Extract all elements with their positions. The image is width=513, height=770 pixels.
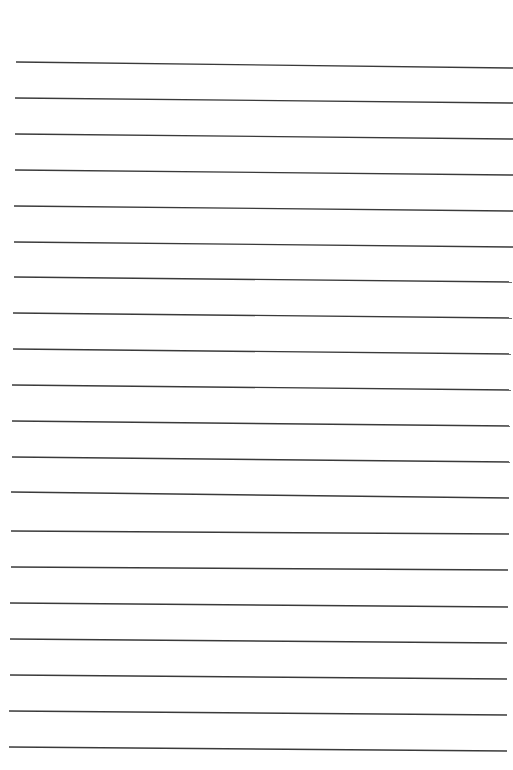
ruled-line-3 [15, 134, 513, 139]
ruled-line-12 [12, 457, 510, 462]
ruled-line-20 [9, 747, 507, 751]
ruled-line-10 [12, 385, 511, 390]
ruled-line-15 [11, 567, 508, 570]
ruled-line-1 [16, 62, 513, 68]
ruled-line-2 [15, 98, 513, 103]
ruled-line-11 [12, 421, 510, 426]
ruled-line-16 [10, 603, 508, 607]
ruled-line-17 [10, 639, 507, 643]
ruled-line-19 [9, 711, 507, 715]
lined-paper-page [0, 0, 513, 770]
ruled-line-13 [11, 492, 509, 498]
ruled-line-4 [15, 170, 513, 175]
ruled-line-18 [10, 675, 507, 679]
ruled-line-9 [13, 349, 511, 354]
ruled-line-7 [14, 277, 512, 282]
ruled-line-8 [13, 313, 512, 318]
ruled-line-14 [11, 531, 509, 534]
ruled-line-6 [14, 242, 513, 247]
ruled-lines [0, 0, 513, 770]
ruled-line-5 [14, 206, 513, 211]
